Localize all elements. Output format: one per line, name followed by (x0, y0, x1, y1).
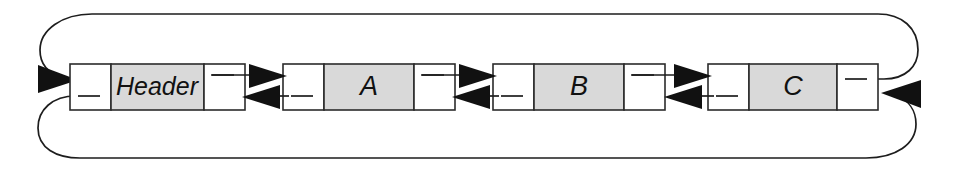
node-b: B (493, 64, 665, 110)
node-header: Header (70, 64, 245, 110)
node-a-prev-cell (283, 64, 324, 110)
node-c-prev-cell (708, 64, 749, 110)
link-prev-c-to-b-arrowhead-icon (664, 85, 702, 109)
link-prev-c-to-b (664, 85, 714, 109)
node-a-next-cell (414, 64, 455, 110)
node-b-prev-cell (493, 64, 534, 110)
link-next-a-to-b-arrowhead-icon (459, 64, 497, 88)
wrap-bottom-arrowhead-icon (881, 80, 921, 108)
node-c-next-cell (837, 64, 878, 110)
node-header-prev-cell (70, 64, 111, 110)
node-header-next-cell (204, 64, 245, 110)
node-header-label: Header (116, 72, 200, 100)
link-prev-b-to-a-arrowhead-icon (452, 85, 490, 109)
node-a-label: A (358, 71, 378, 101)
node-b-label: B (570, 71, 588, 101)
link-next-b-to-c-arrowhead-icon (674, 64, 712, 88)
link-prev-a-to-header-arrowhead-icon (242, 85, 280, 109)
node-a: A (283, 64, 455, 110)
link-prev-a-to-header (242, 85, 289, 109)
node-b-next-cell (624, 64, 665, 110)
node-c-label: C (783, 71, 803, 101)
diagram-canvas: Header A B C (0, 0, 960, 170)
link-next-header-to-a-arrowhead-icon (249, 64, 287, 88)
linked-list-diagram: Header A B C (0, 0, 960, 170)
link-prev-b-to-a (452, 85, 499, 109)
node-c: C (708, 64, 878, 110)
